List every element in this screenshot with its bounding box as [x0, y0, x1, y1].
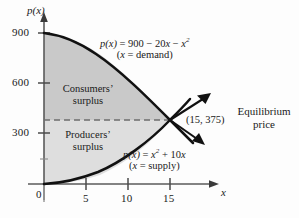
supply-eq-x2: x	[181, 149, 186, 160]
supply-equation-line1: p(x) = x2 + 10x	[123, 148, 186, 160]
demand-eq-exponent: 2	[186, 36, 190, 44]
supply-eq-fn: p(x)	[123, 149, 140, 160]
x-axis-arrowhead	[209, 180, 219, 187]
producers-surplus-label: Producers’ surplus	[52, 129, 124, 154]
demand-sub-text: = demand)	[125, 49, 173, 60]
supply-equation-line2: (x = supply)	[123, 160, 186, 172]
supply-sub-text: = supply)	[137, 160, 180, 171]
equilibrium-price-line1: Equilibrium	[231, 105, 297, 118]
y-tick-label-600: 600	[12, 76, 29, 88]
economics-surplus-figure: p(x) x 900 600 300 0 5 10 15 p(x) = 900 …	[0, 0, 299, 218]
demand-equation-annotation: p(x) = 900 − 20x − x2 (x = demand)	[100, 37, 190, 61]
y-tick-label-900: 900	[12, 26, 29, 38]
x-tick-label-5: 5	[83, 192, 89, 204]
demand-eq-fn: p(x)	[100, 38, 117, 49]
equilibrium-price-line2: price	[231, 118, 297, 131]
demand-equation-line1: p(x) = 900 − 20x − x2	[100, 37, 190, 49]
supply-eq-tail: + 10	[159, 149, 181, 160]
supply-equation-annotation: p(x) = x2 + 10x (x = supply)	[123, 148, 186, 172]
producers-surplus-label-line1: Producers’	[52, 129, 124, 141]
x-axis-label: x	[221, 186, 226, 198]
x-tick-label-15: 15	[163, 192, 174, 204]
equilibrium-point-label: (15, 375)	[186, 114, 225, 126]
equilibrium-price-callout: Equilibrium price	[231, 105, 297, 130]
consumers-surplus-label: Consumers’ surplus	[52, 83, 124, 108]
demand-eq-minus: −	[170, 38, 181, 49]
demand-equation-line2: (x = demand)	[100, 49, 190, 61]
y-tick-label-300: 300	[12, 126, 29, 138]
producers-surplus-label-line2: surplus	[52, 141, 124, 153]
x-tick-label-0: 0	[36, 188, 42, 200]
x-tick-label-10: 10	[121, 192, 132, 204]
supply-eq-mid: =	[140, 149, 151, 160]
demand-eq-mid: = 900 − 20	[117, 38, 166, 49]
consumers-surplus-label-line2: surplus	[52, 95, 124, 107]
y-axis-label: p(x)	[27, 4, 45, 16]
consumers-surplus-label-line1: Consumers’	[52, 83, 124, 95]
